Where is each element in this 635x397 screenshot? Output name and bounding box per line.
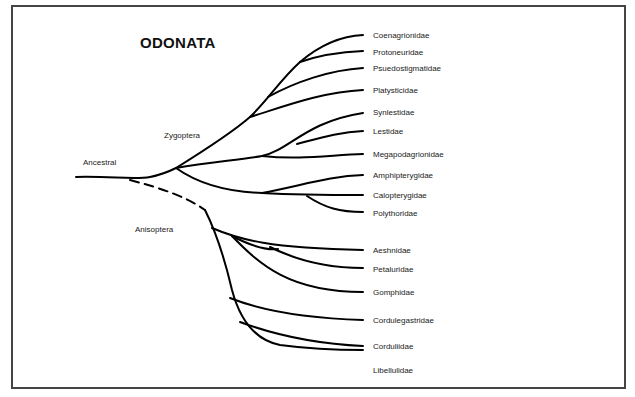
taxon-label: Polythoridae: [373, 209, 417, 218]
taxon-label: Psuedostigmatidae: [373, 64, 441, 73]
phylogenetic-tree: [0, 0, 635, 397]
taxon-label: Gomphidae: [373, 288, 414, 297]
anisoptera-dashed-link: [130, 180, 205, 210]
zygoptera-label: Zygoptera: [164, 131, 200, 140]
taxon-label: Cordulegastridae: [373, 316, 434, 325]
taxon-label: Lestidae: [373, 127, 403, 136]
taxon-label: Petaluridae: [373, 265, 413, 274]
taxon-label: Coenagrionidae: [373, 31, 430, 40]
taxon-label: Protoneuridae: [373, 48, 423, 57]
ancestral-label: Ancestral: [83, 158, 116, 167]
taxon-label: Aeshnidae: [373, 246, 411, 255]
taxon-label: Amphipterygidae: [373, 171, 433, 180]
taxon-label: Libellulidae: [373, 366, 413, 375]
taxon-label: Megapodagrionidae: [373, 150, 444, 159]
anisoptera-label: Anisoptera: [135, 225, 173, 234]
taxon-label: Calopterygidae: [373, 191, 427, 200]
diagram-title: ODONATA: [140, 34, 216, 51]
taxon-label: Synlestidae: [373, 108, 414, 117]
ancestral-stem: [76, 168, 176, 178]
taxon-label: Platysticidae: [373, 86, 418, 95]
taxon-label: Corduliidae: [373, 342, 413, 351]
